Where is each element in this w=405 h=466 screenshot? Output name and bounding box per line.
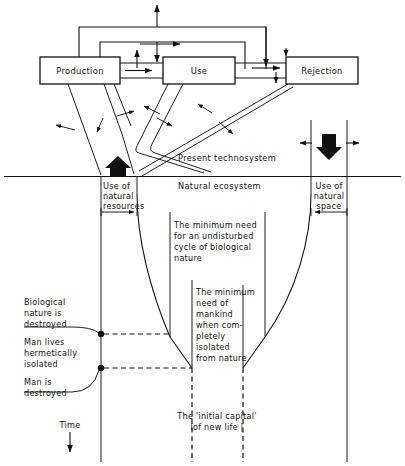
span-label-resources-line-3: resources xyxy=(103,201,144,211)
annotation-initial-capital-line-2: lof new life | xyxy=(190,422,243,432)
figure-canvas: Production Use Rejection Present technos… xyxy=(0,0,405,466)
zone-label-technosystem: Present technosystem xyxy=(178,153,276,163)
box-label-use: Use xyxy=(191,66,208,76)
axis-label-time: Time xyxy=(59,420,81,430)
diagram-svg: Production Use Rejection Present technos… xyxy=(0,0,405,466)
span-label-space-line-2: natural xyxy=(314,191,345,201)
annotation-mankind-line-1: The minimum xyxy=(195,287,255,297)
annotation-mankind-line-4: when com- xyxy=(196,320,243,330)
annotation-cycle-line-3: cycle of biological xyxy=(174,242,251,252)
emission-lines-production xyxy=(68,84,134,175)
event-label-bio-line-3: destroyed xyxy=(24,319,67,329)
flow-use-to-rejection xyxy=(235,63,286,78)
annotation-mankind-line-2: need of xyxy=(196,298,228,308)
span-label-space-line-3: space xyxy=(317,201,342,211)
event-label-isolated-line-1: Man lives xyxy=(24,337,64,347)
event-label-man-destroyed-line-2: destroyed xyxy=(24,388,67,398)
annotation-mankind-line-3: mankind xyxy=(196,309,233,319)
annotation-initial-capital-line-1: The 'initial capital' xyxy=(176,411,256,421)
annotation-cycle-line-1: The minimum need xyxy=(173,220,257,230)
annotation-cycle-line-2: for an undisturbed xyxy=(174,231,254,241)
event-label-bio-line-2: nature is xyxy=(24,308,62,318)
box-label-rejection: Rejection xyxy=(301,66,342,76)
block-arrow-up-resources xyxy=(105,156,131,177)
diffusion-arrows xyxy=(56,104,233,134)
event-label-isolated-line-3: isolated xyxy=(24,359,58,369)
annotation-mankind-line-5: pletely xyxy=(196,331,225,341)
annotation-mankind-line-7: from nature xyxy=(196,353,247,363)
flow-production-to-use xyxy=(120,63,163,78)
box-label-production: Production xyxy=(56,66,104,76)
block-arrow-down-space xyxy=(316,134,342,160)
span-label-space-line-1: Use of xyxy=(316,181,343,191)
marker-dot-biological-nature-destroyed xyxy=(98,331,104,337)
annotation-cycle-line-4: nature xyxy=(174,253,202,263)
event-label-man-destroyed-line-1: Man is xyxy=(24,377,52,387)
annotation-mankind-line-6: isolated xyxy=(196,342,230,352)
zone-label-ecosystem: Natural ecosystem xyxy=(178,181,261,191)
span-label-resources-line-1: Use of xyxy=(103,181,130,191)
span-label-resources-line-2: natural xyxy=(103,191,134,201)
event-label-bio-line-1: Biological xyxy=(24,297,66,307)
event-label-isolated-line-2: hermetically xyxy=(24,348,77,358)
